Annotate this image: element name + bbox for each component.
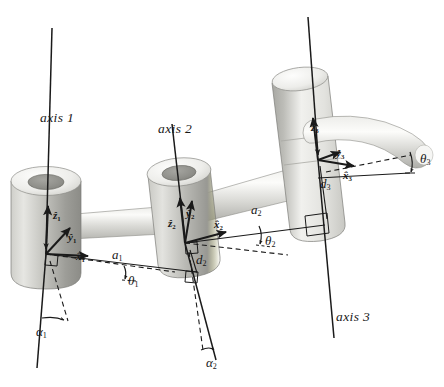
alpha2-angle-label: α2 <box>206 356 217 371</box>
a2-length-label: a2 <box>251 203 262 218</box>
axis-2-label: axis 2 <box>158 122 192 136</box>
alpha1-angle-label: α1 <box>36 325 47 340</box>
y1-vector-label: ŷ1 <box>68 232 76 244</box>
d3-offset-label: d3 <box>320 177 331 192</box>
robot-kinematics-illustration <box>0 0 444 387</box>
axis-3-label: axis 3 <box>336 310 370 324</box>
joint-3-cylinder <box>271 64 345 241</box>
y3-vector-label: ŷ3 <box>336 148 344 160</box>
x1-vector-label: x̂1 <box>76 251 85 263</box>
dh-parameter-diagram: axis 1 axis 2 axis 3 ẑ1 ŷ1 x̂1 ẑ2 ŷ2… <box>0 0 444 387</box>
theta3-angle-label: θ3 <box>420 152 430 167</box>
z2-vector-label: ẑ2 <box>168 218 176 230</box>
x3-vector-label: x̂3 <box>343 170 352 182</box>
a1-length-label: a1 <box>112 248 123 263</box>
theta2-angle-label: θ2 <box>265 234 275 249</box>
z3-vector-label: ẑ3 <box>311 122 319 134</box>
d2-offset-label: d2 <box>196 253 207 268</box>
theta1-angle-label: θ1 <box>128 274 138 289</box>
z1-vector-label: ẑ1 <box>53 210 61 222</box>
y2-vector-label: ŷ2 <box>186 208 194 220</box>
x2-vector-label: x̂2 <box>214 219 223 231</box>
axis-1-label: axis 1 <box>40 111 74 125</box>
